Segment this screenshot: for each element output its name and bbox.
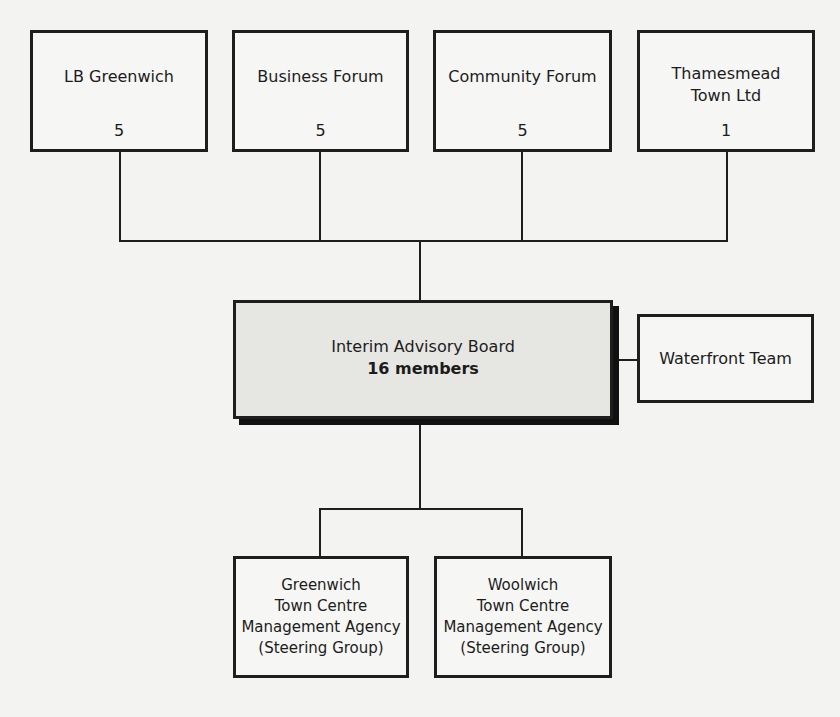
box-community-forum: Community Forum 5 [433, 30, 612, 152]
connector-woolwich-tcma [521, 508, 523, 558]
member-count: 5 [235, 121, 406, 141]
connector-board-down [419, 424, 421, 509]
connector-business-forum [319, 151, 321, 241]
box-thamesmead-town-ltd: Thamesmead Town Ltd 1 [637, 30, 815, 152]
connector-to-waterfront [617, 359, 638, 361]
box-label: Greenwich Town Centre Management Agency … [236, 575, 406, 659]
board-member-count: 16 members [236, 358, 610, 380]
member-count: 5 [436, 121, 609, 141]
connector-to-board [419, 240, 421, 302]
box-woolwich-tcma: Woolwich Town Centre Management Agency (… [434, 556, 612, 678]
box-label: Thamesmead Town Ltd [640, 63, 812, 107]
box-label: Woolwich Town Centre Management Agency (… [437, 575, 609, 659]
board-title: Interim Advisory Board [236, 336, 610, 358]
connector-bottom-horizontal [319, 508, 523, 510]
box-label: Community Forum [436, 66, 609, 88]
connector-thamesmead [726, 151, 728, 241]
box-business-forum: Business Forum 5 [232, 30, 409, 152]
box-greenwich-tcma: Greenwich Town Centre Management Agency … [233, 556, 409, 678]
member-count: 1 [640, 121, 812, 141]
box-label: Business Forum [235, 66, 406, 88]
connector-lb-greenwich [119, 151, 121, 241]
connector-greenwich-tcma [319, 508, 321, 558]
box-label: Waterfront Team [640, 348, 811, 370]
connector-top-horizontal [119, 240, 728, 242]
connector-community-forum [521, 151, 523, 241]
box-waterfront-team: Waterfront Team [637, 314, 814, 403]
member-count: 5 [33, 121, 205, 141]
box-label: LB Greenwich [33, 66, 205, 88]
box-lb-greenwich: LB Greenwich 5 [30, 30, 208, 152]
box-interim-advisory-board: Interim Advisory Board 16 members [233, 300, 613, 419]
